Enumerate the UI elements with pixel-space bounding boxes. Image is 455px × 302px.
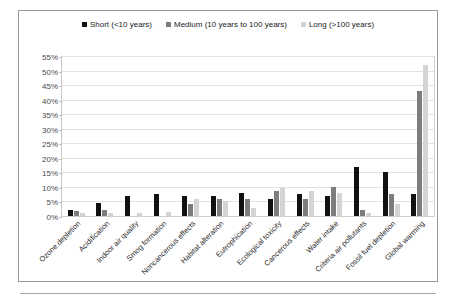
bar[interactable] <box>166 212 171 216</box>
bar-group <box>377 56 406 216</box>
y-tick-label: 25% <box>42 140 58 149</box>
figure-container: Short (<10 years)Medium (10 years to 100… <box>0 0 455 302</box>
bar-group <box>405 56 434 216</box>
bar[interactable] <box>68 210 73 216</box>
bar-group <box>91 56 120 216</box>
bar[interactable] <box>383 172 388 216</box>
bar[interactable] <box>309 191 314 216</box>
legend-item[interactable]: Short (<10 years) <box>82 20 152 29</box>
bar[interactable] <box>211 196 216 216</box>
bar[interactable] <box>297 194 302 216</box>
y-tick-label: 50% <box>42 67 58 76</box>
bar[interactable] <box>360 210 365 216</box>
x-label-slot: Cancerous effects <box>291 217 320 291</box>
chart-legend: Short (<10 years)Medium (10 years to 100… <box>19 20 437 29</box>
bar[interactable] <box>194 199 199 216</box>
bar-group <box>262 56 291 216</box>
bar[interactable] <box>125 196 130 216</box>
bar-group <box>205 56 234 216</box>
legend-label: Long (>100 years) <box>309 20 374 29</box>
legend-label: Short (<10 years) <box>90 20 152 29</box>
bar[interactable] <box>423 65 428 216</box>
bar[interactable] <box>337 193 342 216</box>
bar[interactable] <box>102 210 107 216</box>
y-tick-label: 5% <box>46 198 58 207</box>
bar[interactable] <box>137 213 142 216</box>
bar[interactable] <box>96 203 101 216</box>
y-tick-label: 10% <box>42 183 58 192</box>
bar[interactable] <box>251 208 256 216</box>
legend-swatch-icon <box>166 22 171 27</box>
bar[interactable] <box>389 194 394 216</box>
bar[interactable] <box>108 213 113 216</box>
bar-group <box>319 56 348 216</box>
bar[interactable] <box>366 213 371 216</box>
legend-swatch-icon <box>301 22 306 27</box>
plot-area: 55%50%45%40%35%30%25%20%15%10%5%0% <box>62 56 434 216</box>
y-tick-label: 30% <box>42 125 58 134</box>
bar[interactable] <box>223 201 228 216</box>
bar[interactable] <box>331 187 336 216</box>
bar-group <box>62 56 91 216</box>
bar[interactable] <box>239 193 244 216</box>
y-tick-label: 40% <box>42 96 58 105</box>
x-label-slot: Global warming <box>405 217 434 291</box>
bar[interactable] <box>303 199 308 216</box>
bar-group <box>291 56 320 216</box>
bar[interactable] <box>154 194 159 216</box>
bar[interactable] <box>74 211 79 216</box>
bar-group <box>148 56 177 216</box>
x-label-slot: Ozone depletion <box>62 217 91 291</box>
x-axis-labels: Ozone depletionAcidificationIndoor air q… <box>62 217 434 291</box>
bar[interactable] <box>417 91 422 216</box>
bar[interactable] <box>217 199 222 216</box>
y-tick-label: 20% <box>42 154 58 163</box>
plot-right-edge <box>434 56 435 217</box>
bar[interactable] <box>182 196 187 216</box>
legend-item[interactable]: Long (>100 years) <box>301 20 374 29</box>
bar[interactable] <box>274 191 279 216</box>
bar-group <box>348 56 377 216</box>
legend-item[interactable]: Medium (10 years to 100 years) <box>166 20 287 29</box>
bar[interactable] <box>188 204 193 216</box>
y-tick-label: 0% <box>46 213 58 222</box>
bar-group <box>119 56 148 216</box>
bar[interactable] <box>280 188 285 216</box>
bar-group <box>234 56 263 216</box>
chart-frame: Short (<10 years)Medium (10 years to 100… <box>18 10 438 282</box>
bar[interactable] <box>268 199 273 216</box>
bar-group <box>176 56 205 216</box>
bar[interactable] <box>395 204 400 216</box>
bar[interactable] <box>354 167 359 216</box>
footer-rule <box>20 293 436 294</box>
x-tick-label: Ozone depletion <box>38 219 83 264</box>
bar[interactable] <box>80 213 85 216</box>
y-tick-label: 55% <box>42 53 58 62</box>
bars-layer <box>62 56 434 216</box>
y-tick-label: 35% <box>42 111 58 120</box>
bar[interactable] <box>411 194 416 216</box>
bar[interactable] <box>245 199 250 216</box>
y-tick-label: 15% <box>42 169 58 178</box>
y-tick-label: 45% <box>42 82 58 91</box>
legend-swatch-icon <box>82 22 87 27</box>
legend-label: Medium (10 years to 100 years) <box>174 20 287 29</box>
bar[interactable] <box>325 196 330 216</box>
